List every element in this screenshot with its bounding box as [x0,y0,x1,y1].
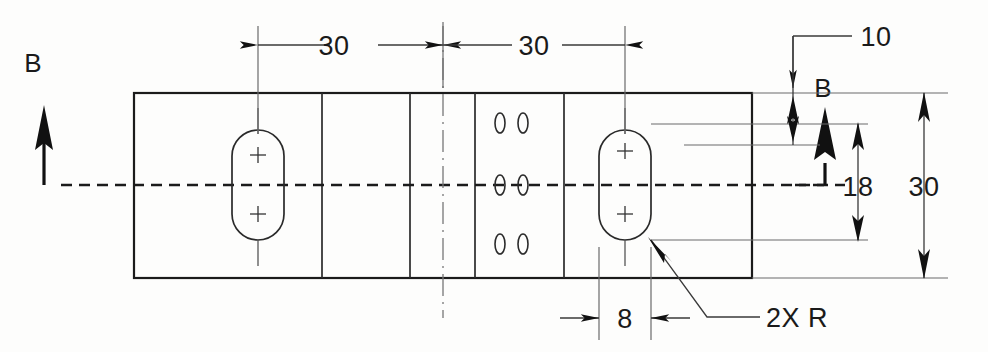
dimension-right-18: 18 [842,122,873,242]
dimension-right-10: 10 [787,22,892,145]
small-oval-array [495,113,528,254]
dimension-label-right-18: 18 [842,172,873,202]
dimension-label-right-30: 30 [908,172,939,202]
dimension-top-left-30: 30 [258,31,443,61]
dimension-label-top-left-30: 30 [318,31,349,61]
dimension-label-top-right-30: 30 [518,31,549,61]
dimension-top-right-30: 30 [443,31,625,61]
right-slot-upper-crosshair [617,143,633,159]
section-arrow-right-B: B [795,73,836,185]
right-slot-lower-crosshair [617,206,633,222]
engineering-drawing-canvas: 30 30 B B [0,0,988,352]
dimension-label-right-10: 10 [860,22,891,52]
section-arrow-left-B: B [24,48,53,185]
radius-note-label: 2X R [766,303,828,333]
drawing-svg: 30 30 B B [0,0,988,352]
left-slot-upper-crosshair [250,147,266,163]
left-slot-lower-crosshair [250,206,266,222]
section-label-right-B: B [814,73,831,103]
dimension-right-30: 30 [908,92,939,279]
top-dimension-extension-lines [258,26,625,134]
dimension-label-bottom-8: 8 [617,304,633,334]
section-label-left-B: B [24,48,41,78]
